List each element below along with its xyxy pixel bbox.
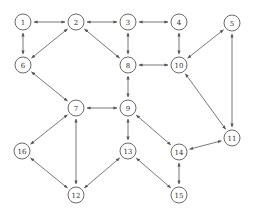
edge-9-14 — [136, 115, 170, 145]
node-7: 7 — [68, 100, 84, 116]
node-9: 9 — [120, 100, 136, 116]
double-arrow-icon — [32, 29, 68, 58]
node-label: 10 — [175, 62, 184, 70]
node-label: 13 — [124, 148, 133, 156]
double-arrow-icon — [136, 158, 170, 188]
node-label: 15 — [175, 192, 184, 200]
edge-2-6 — [32, 29, 68, 58]
double-arrow-icon — [190, 141, 222, 149]
node-10: 10 — [171, 57, 187, 73]
edge-6-7 — [32, 72, 68, 101]
node-16: 16 — [14, 143, 30, 159]
edge-13-15 — [136, 158, 170, 188]
node-label: 2 — [74, 19, 78, 27]
node-14: 14 — [171, 144, 187, 160]
node-5: 5 — [224, 15, 240, 31]
node-1: 1 — [15, 14, 31, 30]
node-8: 8 — [120, 57, 136, 73]
node-label: 7 — [74, 105, 78, 113]
edge-12-13 — [84, 158, 119, 188]
node-label: 16 — [18, 148, 27, 156]
edge-10-11 — [185, 74, 225, 129]
node-label: 12 — [72, 192, 81, 200]
double-arrow-icon — [84, 29, 119, 58]
node-12: 12 — [68, 187, 84, 203]
edge-16-12 — [31, 158, 68, 188]
node-label: 14 — [175, 149, 184, 157]
node-2: 2 — [68, 14, 84, 30]
node-label: 9 — [126, 105, 130, 113]
double-arrow-icon — [31, 158, 68, 188]
edge-7-16 — [31, 115, 68, 144]
node-13: 13 — [120, 143, 136, 159]
double-arrow-icon — [188, 30, 224, 58]
node-15: 15 — [171, 187, 187, 203]
node-label: 3 — [126, 19, 130, 27]
edge-11-14 — [190, 141, 222, 149]
node-6: 6 — [15, 57, 31, 73]
node-label: 8 — [126, 62, 130, 70]
network-graph: 12345678910111213141516 — [0, 0, 254, 218]
node-3: 3 — [120, 14, 136, 30]
double-arrow-icon — [84, 158, 119, 188]
node-label: 1 — [21, 19, 25, 27]
double-arrow-icon — [31, 115, 68, 144]
node-label: 6 — [21, 62, 26, 70]
node-4: 4 — [171, 14, 187, 30]
edge-5-10 — [188, 30, 224, 58]
double-arrow-icon — [136, 115, 170, 145]
edge-2-8 — [84, 29, 119, 58]
double-arrow-icon — [185, 74, 225, 129]
node-layer: 12345678910111213141516 — [14, 14, 240, 203]
node-11: 11 — [224, 130, 240, 146]
node-label: 5 — [230, 20, 234, 28]
double-arrow-icon — [32, 72, 68, 101]
node-label: 11 — [228, 135, 237, 143]
node-label: 4 — [177, 19, 182, 27]
